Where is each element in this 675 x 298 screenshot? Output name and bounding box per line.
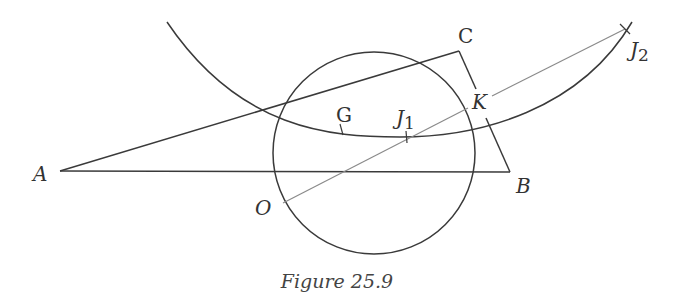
label-J2-sub: 2 <box>638 45 649 65</box>
construction-line-OK <box>283 108 468 203</box>
label-O: O <box>255 196 271 220</box>
segment-CK <box>459 51 476 89</box>
label-J1: J1 <box>392 106 415 133</box>
label-A: A <box>31 162 47 186</box>
label-G: G <box>336 103 352 127</box>
segment-AB <box>60 171 510 172</box>
label-B: B <box>515 174 531 198</box>
geometry-figure: A B C O G J1 K J2 Figure 25.9 <box>0 0 675 298</box>
label-J2: J2 <box>626 38 649 65</box>
label-J1-sub: 1 <box>404 113 415 133</box>
circle <box>273 52 475 254</box>
figure-caption: Figure 25.9 <box>280 270 393 292</box>
label-K: K <box>471 90 488 114</box>
label-C: C <box>458 24 473 48</box>
construction-line-KJ2 <box>492 29 625 96</box>
